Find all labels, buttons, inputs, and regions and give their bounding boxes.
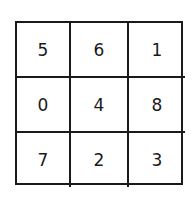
grid-cell-r2c2: 4	[71, 78, 129, 133]
grid-cell-r2c3: 8	[129, 78, 185, 133]
grid-cell-r3c1: 7	[17, 133, 71, 187]
grid-cell-r1c1: 5	[17, 23, 71, 78]
grid-cell-r3c2: 2	[71, 133, 129, 187]
grid-cell-r1c3: 1	[129, 23, 185, 78]
grid-cell-r1c2: 6	[71, 23, 129, 78]
grid-cell-r2c1: 0	[17, 78, 71, 133]
number-grid: 5 6 1 0 4 8 7 2 3	[15, 21, 183, 185]
grid-cell-r3c3: 3	[129, 133, 185, 187]
